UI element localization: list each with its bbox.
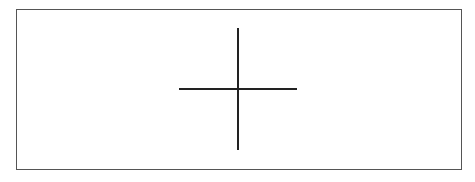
crosshair-horizontal-line (179, 88, 297, 90)
